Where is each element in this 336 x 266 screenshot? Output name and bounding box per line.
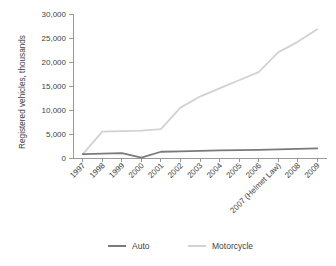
x-tick-label: 2004 [205,161,224,180]
legend-label-motorcycle: Motorcycle [212,241,253,251]
x-tick-label: 1997 [68,161,87,180]
x-tick-label: 2000 [127,161,146,180]
x-tick-label: 2009 [303,161,322,180]
y-tick-label: 10,000 [42,106,67,115]
x-tick-label: 2002 [166,161,185,180]
legend-label-auto: Auto [132,241,150,251]
chart-container: Registered vehicles, thousands 30,000 25… [0,0,336,266]
x-tick-label: 2005 [225,161,244,180]
series-line-motorcycle [83,29,317,154]
y-tick-label: 15,000 [42,82,67,91]
y-tick-label: 5,000 [46,130,67,139]
x-tick-labels: 1997199819992000200120022003200420052006… [68,161,322,216]
y-tick-labels: 30,000 25,000 20,000 15,000 10,000 5,000… [42,10,67,163]
y-axis-label: Registered vehicles, thousands [18,35,27,149]
y-tick-marks [69,14,73,158]
x-tick-label: 2008 [283,161,302,180]
series-line-auto [83,148,317,157]
x-tick-label: 2003 [185,161,204,180]
x-tick-label: 2001 [146,161,165,180]
y-tick-label: 0 [62,154,67,163]
legend: Auto Motorcycle [108,241,253,251]
y-tick-label: 20,000 [42,58,67,67]
y-tick-label: 30,000 [42,10,67,19]
y-tick-label: 25,000 [42,34,67,43]
x-tick-marks [83,158,317,162]
x-tick-label: 1998 [88,161,107,180]
x-tick-label: 1999 [107,161,126,180]
line-chart: Registered vehicles, thousands 30,000 25… [0,0,336,266]
